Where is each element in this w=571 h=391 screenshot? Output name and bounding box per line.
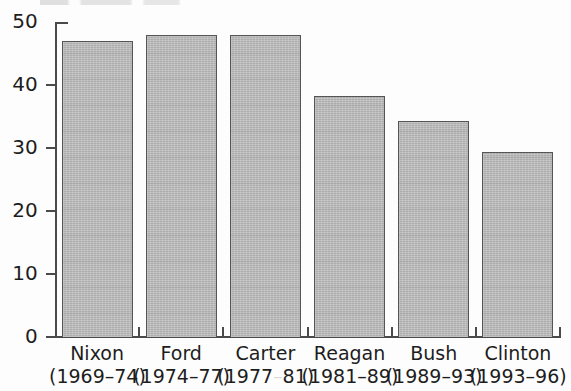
category-name: Nixon [49, 342, 145, 365]
category-term: (1969–74) [49, 365, 145, 388]
category-term: (1977–81) [217, 365, 313, 388]
bar [62, 41, 133, 337]
y-axis-tick-label-20: 20 [0, 200, 38, 220]
category-name: Clinton [470, 342, 566, 365]
y-axis-tick-label-50: 50 [0, 11, 38, 31]
y-axis-tick-label-40: 40 [0, 74, 38, 94]
x-axis-category-label: Nixon(1969–74) [49, 342, 145, 388]
faded-dash-glyph: – [273, 365, 283, 387]
x-axis-category-label: Carter(1977–81) [217, 342, 313, 388]
category-name: Carter [217, 342, 313, 365]
x-axis-category-label: Bush(1989–93) [386, 342, 482, 388]
x-axis-category-label: Clinton(1993–96) [470, 342, 566, 388]
bar [482, 152, 553, 337]
y-axis-tick-label-10: 10 [0, 263, 38, 283]
bar [398, 121, 469, 337]
cropped-caption-artifact [40, 0, 340, 5]
bar [314, 96, 385, 337]
y-axis-tick-label-30: 30 [0, 137, 38, 157]
plot-area [55, 22, 560, 337]
category-name: Ford [133, 342, 229, 365]
bar [146, 35, 217, 337]
category-term: (1974–77) [133, 365, 229, 388]
category-term: (1993–96) [470, 365, 566, 388]
x-axis-category-label: Reagan(1981–89) [302, 342, 398, 388]
category-name: Reagan [302, 342, 398, 365]
bar [230, 35, 301, 337]
category-term: (1989–93) [386, 365, 482, 388]
x-axis-category-label: Ford(1974–77) [133, 342, 229, 388]
category-name: Bush [386, 342, 482, 365]
bar-chart-figure: 01020304050 Nixon(1969–74)Ford(1974–77)C… [0, 0, 571, 391]
y-axis-tick-label-0: 0 [0, 326, 38, 346]
category-term: (1981–89) [302, 365, 398, 388]
